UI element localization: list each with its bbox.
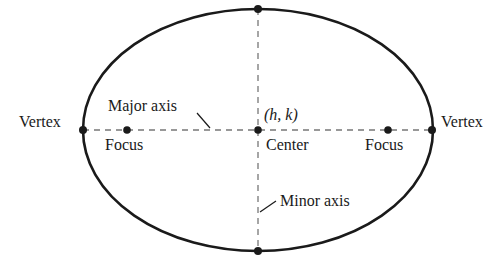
ellipse-diagram: Vertex Vertex Focus Focus Major axis Cen…: [0, 0, 499, 258]
right-focus-point: [384, 126, 392, 134]
left-focus-label: Focus: [105, 137, 143, 153]
major-axis-leader: [197, 113, 210, 128]
left-vertex-label: Vertex: [19, 114, 61, 130]
center-label: Center: [266, 137, 309, 153]
ellipse-figure: [0, 0, 499, 258]
minor-axis-leader: [260, 201, 276, 212]
center-point: [254, 126, 262, 134]
bottom-co-vertex-point: [254, 247, 262, 255]
left-focus-point: [123, 126, 131, 134]
right-focus-label: Focus: [365, 137, 403, 153]
major-axis-label: Major axis: [108, 98, 177, 114]
right-vertex-label: Vertex: [441, 114, 483, 130]
left-vertex-point: [79, 126, 87, 134]
top-co-vertex-point: [254, 5, 262, 13]
right-vertex-point: [428, 126, 436, 134]
center-coords-text: (h, k): [264, 106, 298, 123]
center-coords-label: (h, k): [264, 107, 298, 123]
minor-axis-label: Minor axis: [280, 193, 350, 209]
